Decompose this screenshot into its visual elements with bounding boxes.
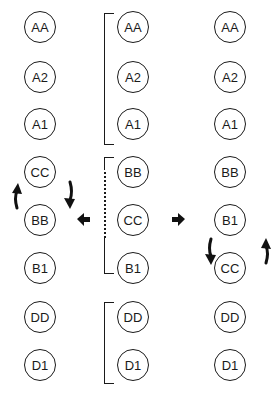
curved-arrow-up-right-icon <box>261 238 271 263</box>
curved-arrow-down-right-icon <box>205 239 216 265</box>
block-arrow-left-icon <box>77 213 90 226</box>
block-arrow-right-icon <box>172 213 185 226</box>
curved-arrow-down-left-icon <box>64 182 75 209</box>
arrows-layer <box>0 0 280 397</box>
curved-arrow-up-left-icon <box>12 183 22 208</box>
